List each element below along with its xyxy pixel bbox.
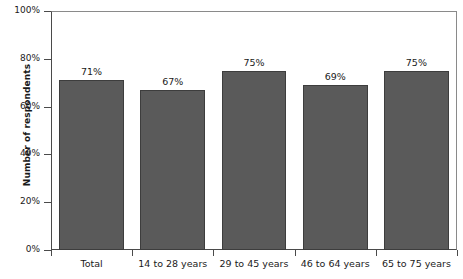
y-axis-tick xyxy=(44,11,51,12)
bar-chart: Number of respondents 0%20%40%60%80%100%… xyxy=(0,0,463,279)
bar xyxy=(222,71,287,250)
bar-value-label: 75% xyxy=(376,57,456,68)
y-axis-tick-label: 40% xyxy=(0,148,40,158)
bar-value-label: 69% xyxy=(295,71,375,82)
y-axis-tick xyxy=(44,154,51,155)
bar xyxy=(140,90,205,250)
y-axis-tick xyxy=(44,59,51,60)
y-axis-tick xyxy=(44,250,51,251)
bar xyxy=(59,80,124,250)
y-axis-tick xyxy=(44,107,51,108)
y-axis-tick-label: 80% xyxy=(0,53,40,63)
x-axis-tick xyxy=(376,250,377,256)
bar-value-label: 67% xyxy=(133,76,213,87)
x-axis-category-label: 65 to 75 years xyxy=(366,258,463,269)
y-axis-tick xyxy=(44,202,51,203)
y-axis-tick-label: 20% xyxy=(0,196,40,206)
x-axis-tick xyxy=(457,250,458,256)
bar xyxy=(384,71,449,250)
y-axis-tick-label: 100% xyxy=(0,5,40,15)
x-axis-tick xyxy=(213,250,214,256)
x-axis-tick xyxy=(295,250,296,256)
x-axis-tick xyxy=(51,250,52,256)
x-axis-tick xyxy=(132,250,133,256)
bar-value-label: 75% xyxy=(214,57,294,68)
bar xyxy=(303,85,368,250)
y-axis-tick-label: 0% xyxy=(0,244,40,254)
bar-value-label: 71% xyxy=(52,66,132,77)
y-axis-tick-label: 60% xyxy=(0,101,40,111)
